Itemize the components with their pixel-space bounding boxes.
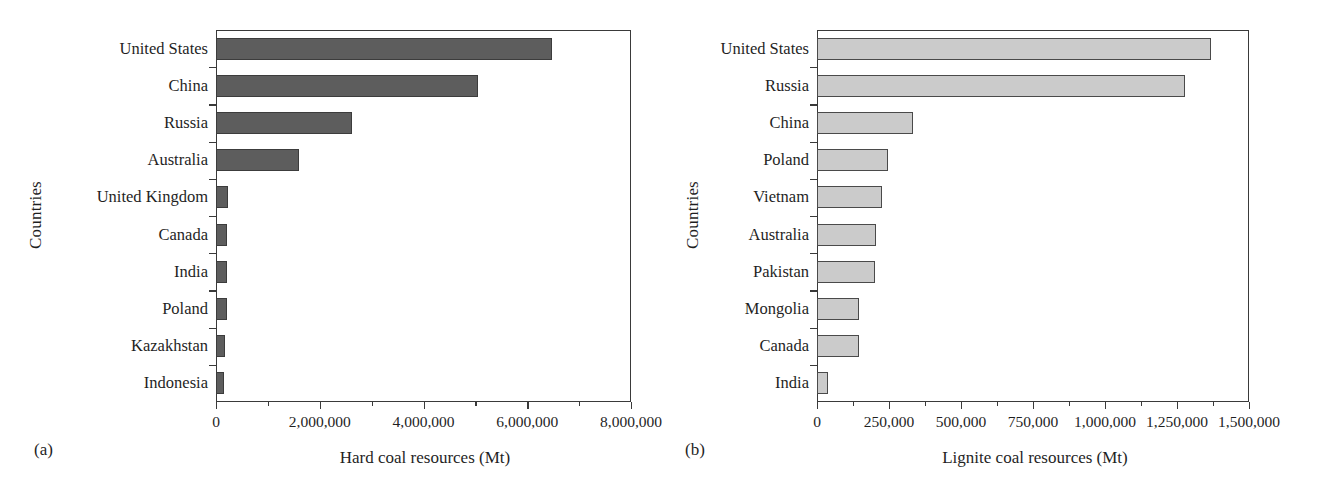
bar xyxy=(817,186,882,208)
x-axis-tick-label: 500,000 xyxy=(936,413,986,431)
bar xyxy=(817,298,859,320)
y-axis-tick-label: United Kingdom xyxy=(97,189,208,206)
x-axis-minor-tick xyxy=(853,402,854,406)
x-axis-tick xyxy=(320,402,321,409)
x-axis-minor-tick xyxy=(579,402,580,406)
y-axis-tick xyxy=(209,290,216,291)
x-axis-tick-label: 2,000,000 xyxy=(289,413,351,431)
y-axis-tick-label: India xyxy=(174,264,208,281)
bar xyxy=(817,75,1185,97)
x-axis-tick xyxy=(1177,402,1178,409)
x-axis-minor-tick xyxy=(997,402,998,406)
x-axis-tick-label: 1,000,000 xyxy=(1074,413,1136,431)
y-axis-tick-labels-a: United StatesChinaRussiaAustraliaUnited … xyxy=(0,0,208,490)
y-axis-tick xyxy=(209,216,216,217)
y-axis-tick xyxy=(810,253,817,254)
y-axis-tick-label: Russia xyxy=(765,78,809,95)
x-axis-label-b: Lignite coal resources (Mt) xyxy=(825,448,1245,468)
y-axis-tick xyxy=(209,67,216,68)
chart-panel-b: Countries United StatesRussiaChinaPoland… xyxy=(665,0,1329,490)
x-axis-tick xyxy=(1249,402,1250,409)
y-axis-tick-label: United States xyxy=(120,41,208,58)
x-axis-tick xyxy=(424,402,425,409)
x-axis-tick xyxy=(889,402,890,409)
y-axis-tick-label: India xyxy=(775,375,809,392)
x-axis-tick xyxy=(216,402,217,409)
bar xyxy=(216,261,227,283)
y-axis-tick-label: China xyxy=(169,78,208,95)
y-axis-tick xyxy=(810,104,817,105)
y-axis-tick xyxy=(810,67,817,68)
y-axis-tick xyxy=(810,179,817,180)
x-axis-tick xyxy=(1105,402,1106,409)
bar xyxy=(216,372,224,394)
bar xyxy=(216,335,225,357)
x-axis-minor-tick xyxy=(925,402,926,406)
x-axis-minor-tick xyxy=(1141,402,1142,406)
x-axis-minor-tick xyxy=(475,402,476,406)
x-axis-tick-label: 8,000,000 xyxy=(600,413,662,431)
bar xyxy=(216,149,299,171)
bar xyxy=(216,38,552,60)
y-axis-tick-label: Indonesia xyxy=(144,375,208,392)
x-axis-minor-tick xyxy=(268,402,269,406)
y-axis-tick xyxy=(810,142,817,143)
y-axis-tick-label: Canada xyxy=(159,227,208,244)
y-axis-tick xyxy=(810,290,817,291)
y-axis-tick-label: Poland xyxy=(162,301,208,318)
y-axis-tick-label: China xyxy=(770,115,809,132)
x-axis-tick xyxy=(961,402,962,409)
x-axis-tick-label: 0 xyxy=(813,413,821,431)
bar xyxy=(817,372,828,394)
x-axis-tick-label: 750,000 xyxy=(1008,413,1058,431)
y-axis-tick-label: Russia xyxy=(164,115,208,132)
y-axis-tick-label: Canada xyxy=(760,338,809,355)
y-axis-tick xyxy=(209,328,216,329)
x-axis-tick-label: 4,000,000 xyxy=(393,413,455,431)
bar xyxy=(216,75,478,97)
y-axis-tick-label: Australia xyxy=(148,152,208,169)
panel-tag-b: (b) xyxy=(685,440,705,460)
figure-container: Countries United StatesChinaRussiaAustra… xyxy=(0,0,1329,490)
bar xyxy=(817,112,913,134)
y-axis-tick-label: Kazakhstan xyxy=(131,338,208,355)
x-axis-minor-tick xyxy=(372,402,373,406)
y-axis-tick-label: Mongolia xyxy=(745,301,809,318)
y-axis-tick xyxy=(209,179,216,180)
bar xyxy=(216,224,227,246)
y-axis-tick xyxy=(209,142,216,143)
y-axis-tick xyxy=(209,253,216,254)
y-axis-tick xyxy=(810,216,817,217)
bar xyxy=(216,186,228,208)
x-axis-label-a: Hard coal resources (Mt) xyxy=(225,448,625,468)
y-axis-tick xyxy=(209,365,216,366)
chart-panel-a: Countries United StatesChinaRussiaAustra… xyxy=(0,0,665,490)
y-axis-tick xyxy=(810,328,817,329)
bar xyxy=(817,38,1211,60)
x-axis-tick-label: 6,000,000 xyxy=(496,413,558,431)
x-axis-tick-label: 1,500,000 xyxy=(1218,413,1280,431)
x-axis-tick xyxy=(1033,402,1034,409)
y-axis-tick-label: Vietnam xyxy=(753,189,809,206)
y-axis-tick-label: Pakistan xyxy=(753,264,809,281)
bar xyxy=(817,335,859,357)
y-axis-tick xyxy=(209,104,216,105)
x-axis-minor-tick xyxy=(1213,402,1214,406)
y-axis-tick-label: Australia xyxy=(749,227,809,244)
x-axis-tick-label: 0 xyxy=(212,413,220,431)
x-axis-tick-label: 1,250,000 xyxy=(1146,413,1208,431)
y-axis-tick-label: United States xyxy=(721,41,809,58)
bar xyxy=(817,261,875,283)
y-axis-tick xyxy=(810,365,817,366)
bar xyxy=(817,149,888,171)
x-axis-tick xyxy=(631,402,632,409)
x-axis-tick-label: 250,000 xyxy=(864,413,914,431)
x-axis-tick xyxy=(817,402,818,409)
x-axis-minor-tick xyxy=(1069,402,1070,406)
bar xyxy=(817,224,876,246)
y-axis-tick-labels-b: United StatesRussiaChinaPolandVietnamAus… xyxy=(665,0,809,490)
y-axis-tick-label: Poland xyxy=(763,152,809,169)
panel-tag-a: (a) xyxy=(34,440,53,460)
bar xyxy=(216,112,352,134)
bar xyxy=(216,298,227,320)
